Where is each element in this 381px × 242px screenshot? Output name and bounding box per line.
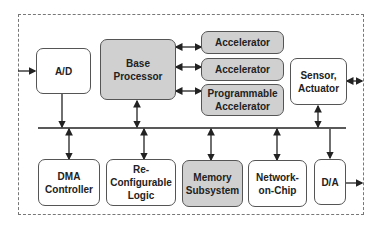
sensor-actuator-block: Sensor, Actuator (290, 58, 347, 105)
memory-subsystem-block: Memory Subsystem (182, 160, 243, 207)
accelerator-block-1: Accelerator (201, 31, 284, 54)
accelerator-block-2: Accelerator (201, 58, 284, 81)
dma-controller-block: DMA Controller (38, 159, 100, 206)
base-processor-block: Base Processor (100, 39, 176, 100)
programmable-accelerator-block: Programmable Accelerator (201, 84, 284, 116)
ad-converter-block: A/D (36, 48, 91, 94)
network-on-chip-block: Network- on-Chip (248, 160, 307, 207)
da-converter-block: D/A (314, 159, 346, 205)
reconfigurable-logic-block: Re- Configurable Logic (106, 159, 176, 206)
